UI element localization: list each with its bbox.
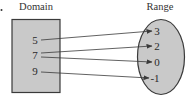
range-value: -1: [150, 72, 159, 84]
domain-label: Domain: [19, 1, 54, 12]
domain-value: 5: [32, 34, 38, 46]
range-ellipse: [138, 20, 185, 95]
bullet-mark: [1, 9, 3, 11]
domain-value: 7: [32, 49, 38, 61]
range-value: 3: [154, 25, 160, 37]
domain-value: 9: [32, 65, 38, 77]
mapping-diagram: Domain Range 5 7 9 3 2 0 -1: [0, 0, 191, 102]
range-label: Range: [147, 1, 174, 12]
range-value: 2: [154, 40, 160, 52]
range-value: 0: [154, 56, 160, 68]
